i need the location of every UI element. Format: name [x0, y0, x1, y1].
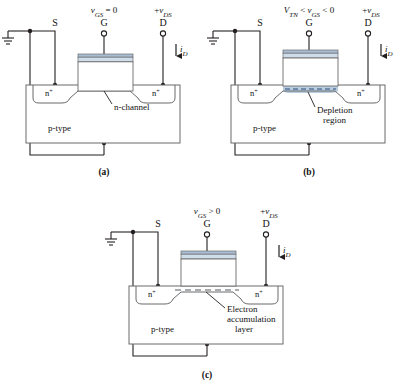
mosfet-three-panel-figure: vGS = 0 +vDS S G D [0, 0, 410, 385]
panel-c-callout-label-line2: accumulation [227, 314, 276, 324]
panel-a-drain-open-terminal [160, 31, 165, 36]
panel-c-ground-node-dot [131, 230, 135, 234]
panel-b-drain-terminal-label: D [364, 17, 371, 28]
panel-b-substrate-label: p-type [253, 123, 276, 133]
panel-a-gate-metal [78, 54, 133, 57]
panel-a-ground-node-dot [28, 29, 32, 33]
panel-b-callout-label-line2: region [323, 115, 346, 125]
panel-c-drain-terminal-label: D [262, 218, 269, 229]
panel-c-gate-metal [181, 251, 236, 254]
panel-c-gate-insulator-block [181, 259, 236, 286]
panel-a-gate-insulator-block [78, 62, 133, 91]
panel-b-source-terminal-label: S [257, 17, 263, 28]
panel-c-caption: (c) [202, 370, 213, 381]
panel-b-gate-insulator-block [283, 58, 338, 86]
panel-a-gate-oxide-upper [78, 57, 133, 62]
panel-b-gate-terminal-label: G [305, 17, 312, 28]
panel-c-substrate-label: p-type [151, 324, 174, 334]
panel-c-gate-terminal-label: G [203, 218, 210, 229]
panel-a-gate-open-terminal [101, 31, 106, 36]
panel-c-callout-label-line1: Electron [227, 304, 258, 314]
panel-b-gate-metal [283, 50, 338, 53]
panel-a-callout-label: n-channel [114, 102, 150, 112]
panel-a-gate-terminal-label: G [100, 17, 107, 28]
panel-c-source-terminal-label: S [155, 218, 161, 229]
panel-b-caption: (b) [303, 167, 315, 178]
panel-b-callout-label-line1: Depletion [317, 105, 353, 115]
panel-b-drain-open-terminal [365, 31, 370, 36]
panel-c-callout-label-line3: layer [235, 324, 253, 334]
panel-a-drain-terminal-label: D [159, 17, 166, 28]
panel-a-caption: (a) [98, 167, 109, 178]
panel-b-gate-oxide-upper [283, 53, 338, 58]
panel-c-gate-open-terminal [204, 232, 209, 237]
panel-b-ground-node-dot [233, 29, 237, 33]
panel-b-gate-open-terminal [306, 31, 311, 36]
panel-c-gate-oxide-upper [181, 254, 236, 259]
panel-c-drain-open-terminal [263, 232, 268, 237]
panel-a-substrate-label: p-type [48, 123, 71, 133]
panel-a-source-terminal-label: S [52, 17, 58, 28]
